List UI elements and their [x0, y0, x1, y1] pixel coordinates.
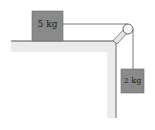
block-2kg-label: 2 kg	[121, 76, 144, 86]
block-5kg-label: 5 kg	[32, 19, 63, 29]
pulley-icon	[123, 24, 133, 34]
table	[11, 41, 116, 118]
pulley-diagram	[0, 0, 155, 130]
